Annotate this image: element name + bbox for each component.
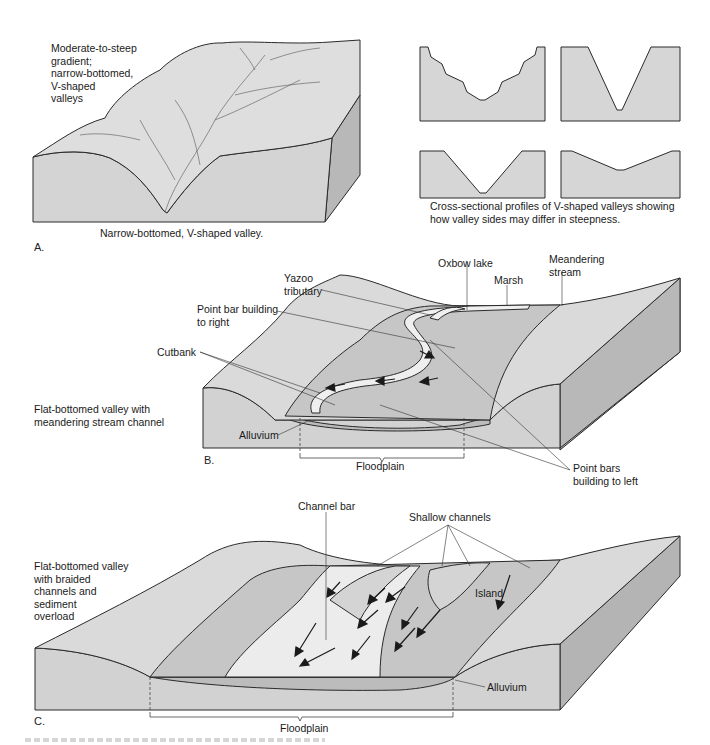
panel-c-description: Flat-bottomed valley with braided channe… [34, 560, 129, 623]
profile-gentle [561, 151, 680, 198]
panel-a-description: Moderate-to-steep gradient; narrow-botto… [51, 42, 137, 105]
panel-a-letter: A. [34, 241, 44, 253]
label-point-bar-right: Point bar building to right [197, 303, 278, 328]
label-channel-bar: Channel bar [298, 500, 355, 513]
label-marsh: Marsh [494, 274, 523, 287]
label-cutbank: Cutbank [157, 346, 196, 359]
profile-moderate [420, 151, 545, 198]
label-shallow-channels: Shallow channels [409, 511, 491, 524]
panel-a-block-diagram [0, 0, 710, 745]
label-island: Island [475, 587, 503, 600]
panel-c-letter: C. [34, 715, 45, 727]
cross-section-profiles [420, 47, 680, 198]
panel-a-caption: Narrow-bottomed, V-shaped valley. [100, 227, 263, 240]
cut-off-figure-caption [25, 738, 325, 742]
label-meandering-stream: Meandering stream [549, 253, 604, 278]
profile-steep [561, 47, 680, 121]
panel-b-letter: B. [204, 454, 214, 466]
profile-stepped [420, 47, 545, 121]
meander-block [203, 275, 680, 450]
panel-b-description: Flat-bottomed valley with meandering str… [34, 403, 164, 428]
label-point-bars-left: Point bars building to left [573, 462, 638, 487]
profiles-caption: Cross-sectional profiles of V-shaped val… [430, 200, 675, 225]
label-oxbow-lake: Oxbow lake [438, 257, 493, 270]
label-floodplain-c: Floodplain [280, 722, 328, 735]
braided-block [35, 536, 680, 710]
label-yazoo-tributary: Yazoo tributary [284, 272, 322, 297]
label-alluvium-b: Alluvium [239, 429, 279, 442]
label-floodplain-b: Floodplain [356, 460, 404, 473]
label-alluvium-c: Alluvium [487, 681, 527, 694]
